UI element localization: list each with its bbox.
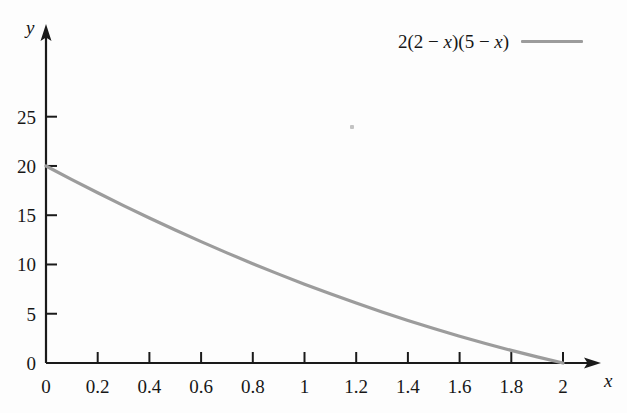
y-tick-label: 20 [0, 156, 36, 175]
x-tick-label: 0 [41, 377, 51, 396]
y-tick-label: 5 [0, 304, 36, 323]
y-tick-marks [46, 117, 57, 314]
x-tick-label: 0.8 [241, 377, 265, 396]
x-tick-label: 2 [558, 377, 568, 396]
x-tick-label: 0.4 [138, 377, 162, 396]
x-tick-label: 0.2 [86, 377, 110, 396]
y-axis-label: y [26, 18, 34, 37]
x-tick-label: 0.6 [189, 377, 213, 396]
data-curve [46, 166, 563, 363]
x-tick-label: 1.8 [499, 377, 523, 396]
x-tick-label: 1 [300, 377, 310, 396]
x-axis-label: x [604, 371, 612, 390]
scan-artifact-speck [350, 125, 354, 129]
legend-line-swatch [521, 40, 583, 43]
figure-canvas: 0510152025 00.20.40.60.811.21.41.61.82 y… [0, 0, 627, 413]
y-tick-label: 0 [0, 354, 36, 373]
y-tick-label: 15 [0, 206, 36, 225]
y-tick-label: 10 [0, 255, 36, 274]
y-tick-label: 25 [0, 107, 36, 126]
legend: 2(2 − x)(5 − x) [398, 32, 583, 51]
x-tick-label: 1.4 [396, 377, 420, 396]
x-tick-marks [98, 352, 563, 363]
legend-entry-label: 2(2 − x)(5 − x) [398, 32, 509, 51]
x-tick-label: 1.2 [344, 377, 368, 396]
axes-group [41, 24, 602, 369]
plot-area [0, 0, 627, 413]
x-tick-label: 1.6 [448, 377, 472, 396]
